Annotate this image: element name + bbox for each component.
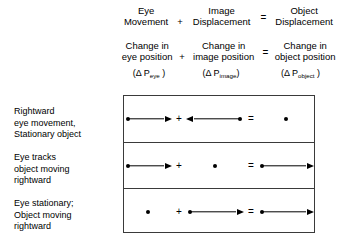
symbol-p-eye: P: [141, 68, 150, 78]
cell-image-displacement-row-2: [186, 189, 244, 234]
cell-image-displacement-row-0: [186, 96, 244, 142]
operator-plus-row-2: +: [172, 189, 186, 234]
dot-icon: [258, 112, 314, 126]
cell-image-displacement-row-1: [186, 143, 244, 188]
symbol-p-image: P: [211, 68, 220, 78]
arrow-right-icon: [258, 205, 314, 219]
operator-plus-line-1: +: [174, 17, 186, 28]
delta-symbol-row: (Δ Peye ) (Δ Pimage) (Δ Pobject ): [118, 68, 339, 79]
arrow-shaft: [262, 165, 306, 166]
table-row: + =: [124, 142, 314, 188]
dot-icon: [124, 205, 172, 219]
arrow-head: [307, 163, 314, 169]
operator-equals-row-1: =: [244, 143, 258, 188]
operator-equals-row-0: =: [244, 96, 258, 142]
symbol-close-paren-eye: ): [160, 68, 166, 78]
row-label-1-line-2: object moving: [14, 164, 118, 176]
table-row: + =: [124, 96, 314, 142]
term-object-displacement: Object Displacement: [269, 6, 339, 27]
arrow-shaft: [128, 118, 164, 119]
term-image-displacement-line-2: Displacement: [186, 17, 258, 28]
stationary-dot: [284, 117, 288, 121]
arrow-head: [237, 209, 244, 215]
equation-header-line-2: Change in eye position + Change in image…: [118, 41, 339, 62]
row-label-1-line-3: rightward: [14, 175, 118, 187]
table-row: + =: [124, 188, 314, 234]
arrow-right-icon: [258, 159, 314, 173]
symbol-close-paren-image: ): [236, 68, 239, 78]
term-object-displacement-line-2: Displacement: [269, 17, 339, 28]
arrow-left-icon: [186, 112, 244, 126]
operator-plus-row-1: +: [172, 143, 186, 188]
arrow-right-icon: [124, 112, 172, 126]
term-eye-movement: Eye Movement: [118, 6, 174, 27]
row-label-2-line-1: Eye stationary;: [14, 198, 118, 210]
vector-equation-table: + = + =: [123, 95, 315, 233]
stationary-dot: [213, 164, 217, 168]
cell-eye-movement-row-2: [124, 189, 172, 234]
arrow-head: [186, 116, 193, 122]
row-label-eye-tracks-object-moving-rightward: Eye tracks object moving rightward: [14, 152, 118, 187]
cell-object-displacement-row-1: [258, 143, 314, 188]
row-label-0-line-2: eye movement,: [14, 118, 118, 130]
operator-equals-line-2: =: [259, 45, 271, 58]
term-change-image-position: Change in image position: [188, 41, 260, 62]
term-change-eye-position-line-2: eye position: [118, 52, 176, 63]
cell-eye-movement-row-1: [124, 143, 172, 188]
arrow-shaft: [190, 211, 236, 212]
arrow-right-icon: [186, 205, 244, 219]
term-change-object-position-line-2: object position: [271, 52, 339, 63]
equation-header-line-1: Eye Movement + Image Displacement = Obje…: [118, 6, 339, 27]
arrow-shaft: [128, 165, 164, 166]
symbol-subscript-object: object: [298, 72, 315, 79]
arrow-head: [165, 163, 172, 169]
term-eye-movement-line-2: Movement: [118, 17, 174, 28]
symbol-delta-p-object: (Δ Pobject ): [262, 68, 339, 79]
row-label-1-line-1: Eye tracks: [14, 152, 118, 164]
arrow-shaft: [194, 118, 240, 119]
operator-equals-row-2: =: [244, 189, 258, 234]
row-label-rightward-eye-movement-stationary-object: Rightward eye movement, Stationary objec…: [14, 106, 118, 141]
operator-equals-line-1: =: [257, 10, 269, 23]
cell-eye-movement-row-0: [124, 96, 172, 142]
arrow-right-icon: [124, 159, 172, 173]
arrow-head: [307, 209, 314, 215]
cell-object-displacement-row-0: [258, 96, 314, 142]
row-label-eye-stationary-object-moving-rightward: Eye stationary; Object moving rightward: [14, 198, 118, 233]
term-change-eye-position: Change in eye position: [118, 41, 176, 62]
symbol-subscript-image: image: [220, 72, 237, 79]
row-label-2-line-3: rightward: [14, 221, 118, 233]
term-image-displacement: Image Displacement: [186, 6, 258, 27]
symbol-close-paren-object: ): [315, 68, 321, 78]
row-label-2-line-2: Object moving: [14, 210, 118, 222]
term-change-image-position-line-2: image position: [188, 52, 260, 63]
dot-icon: [186, 159, 244, 173]
stationary-dot: [146, 210, 150, 214]
cell-object-displacement-row-2: [258, 189, 314, 234]
row-label-0-line-1: Rightward: [14, 106, 118, 118]
term-change-object-position: Change in object position: [271, 41, 339, 62]
symbol-delta-p-image: (Δ Pimage): [180, 68, 262, 79]
symbol-subscript-eye: eye: [150, 72, 160, 79]
operator-plus-row-0: +: [172, 96, 186, 142]
symbol-p-object: P: [289, 68, 298, 78]
arrow-head: [165, 116, 172, 122]
arrow-shaft: [262, 211, 306, 212]
row-label-0-line-3: Stationary object: [14, 129, 118, 141]
symbol-delta-p-eye: (Δ Peye ): [118, 68, 180, 79]
operator-plus-line-2: +: [176, 52, 188, 63]
